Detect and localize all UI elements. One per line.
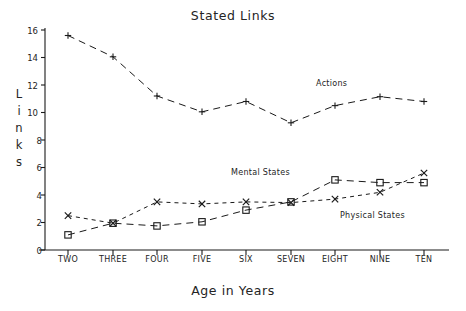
series-markers-actions [65, 32, 427, 126]
plot-area [0, 0, 466, 311]
series-line-physical-states [68, 173, 424, 223]
series-layer [65, 32, 427, 238]
marker-square [377, 179, 383, 185]
series-markers-physical-states [65, 170, 427, 227]
series-markers-mental-states [65, 177, 427, 238]
series-line-actions [68, 36, 424, 123]
chart-container: Stated Links L i n k s Age in Years 0 2 … [0, 0, 466, 311]
